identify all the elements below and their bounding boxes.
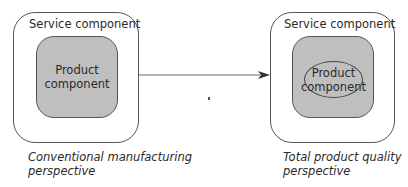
left-product-label-line2: component xyxy=(36,77,118,91)
arrow-connector xyxy=(138,68,272,82)
left-service-component-label: Service component xyxy=(29,17,140,31)
right-product-component-ellipse: Product component xyxy=(304,61,363,98)
right-product-component-label: Product component xyxy=(301,66,366,94)
right-product-label-line1: Product xyxy=(301,66,366,80)
left-caption-line1: Conventional manufacturing xyxy=(28,150,192,164)
left-product-component-label: Product component xyxy=(36,63,118,91)
right-caption-line1: Total product quality xyxy=(283,150,402,164)
right-service-component-label: Service component xyxy=(284,17,395,31)
stray-dot xyxy=(208,97,210,100)
right-caption: Total product quality perspective xyxy=(283,150,402,178)
left-caption: Conventional manufacturing perspective xyxy=(28,150,192,178)
right-product-label-line2: component xyxy=(301,80,366,94)
left-product-label-line1: Product xyxy=(36,63,118,77)
right-caption-line2: perspective xyxy=(283,164,402,178)
left-caption-line2: perspective xyxy=(28,164,192,178)
